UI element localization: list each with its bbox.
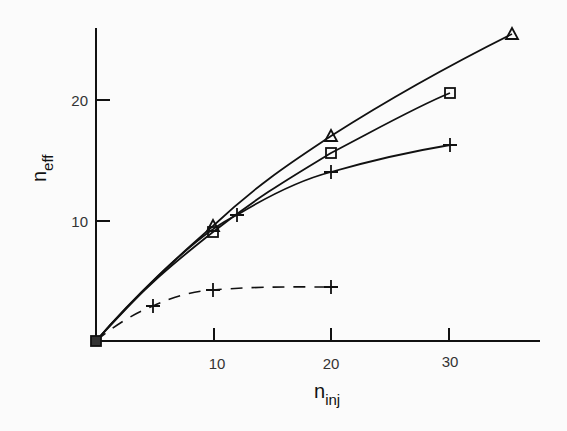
square-marker <box>91 336 101 346</box>
plus-marker <box>146 299 160 313</box>
y-axis-label-main: n <box>28 171 50 182</box>
chart: 20 10 10 20 30 ninj neff <box>0 0 567 431</box>
x-axis-label: ninj <box>314 380 340 408</box>
y-tick-label-20: 20 <box>71 92 88 109</box>
x-tick-label-10: 10 <box>209 355 226 372</box>
series-triangle-markers <box>207 28 518 231</box>
plus-marker <box>443 138 457 152</box>
plus-marker <box>206 283 220 297</box>
y-axis-label: neff <box>28 154 56 182</box>
x-axis-label-sub: inj <box>325 391 340 408</box>
series-square-line <box>96 93 450 341</box>
series-plus-solid-line <box>96 145 450 341</box>
x-tick-label-30: 30 <box>442 353 459 370</box>
y-tick-label-10: 10 <box>71 213 88 230</box>
svg-text:neff: neff <box>28 154 56 182</box>
series-square-markers <box>91 88 455 346</box>
series-plus-dashed-markers <box>146 280 338 313</box>
triangle-marker <box>506 28 518 39</box>
x-tick-label-20: 20 <box>323 355 340 372</box>
series-triangle-line <box>96 34 512 341</box>
x-axis-label-main: n <box>314 380 325 402</box>
plus-marker <box>324 280 338 294</box>
y-axis-label-sub: eff <box>39 154 56 171</box>
plus-marker <box>324 165 338 179</box>
